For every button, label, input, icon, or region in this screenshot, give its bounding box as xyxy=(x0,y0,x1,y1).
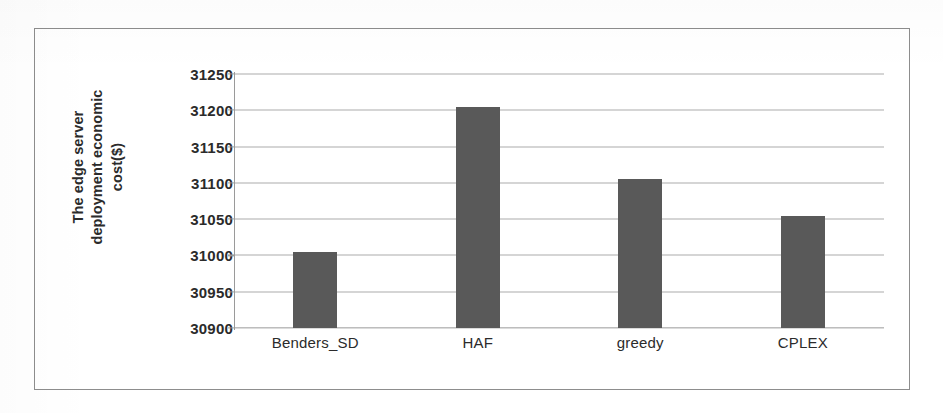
y-axis-tick-mark xyxy=(228,219,235,220)
y-axis-title: The edge server deployment economic cost… xyxy=(70,22,126,312)
bar-slot xyxy=(234,74,397,328)
chart-screenshot: The edge server deployment economic cost… xyxy=(0,0,943,413)
bar[interactable] xyxy=(293,252,337,328)
x-axis-category-label: CPLEX xyxy=(778,334,828,351)
y-axis-tick-mark xyxy=(228,146,235,147)
y-axis-tick-mark xyxy=(228,73,235,74)
x-axis-category-label: Benders_SD xyxy=(272,334,359,351)
bars-layer xyxy=(234,74,884,328)
y-axis-title-line-2: deployment economic xyxy=(88,90,107,245)
y-axis-tick-mark xyxy=(228,182,235,183)
bar-slot xyxy=(397,74,560,328)
chart-frame: The edge server deployment economic cost… xyxy=(34,28,910,390)
bar[interactable] xyxy=(618,179,662,328)
y-axis-tick-mark xyxy=(228,110,235,111)
y-axis-tick-label: 31100 xyxy=(133,174,233,191)
y-axis-tick-mark xyxy=(228,255,235,256)
x-axis-category-labels: Benders_SDHAFgreedyCPLEX xyxy=(234,334,884,364)
y-axis-title-line-1: The edge server xyxy=(69,111,88,224)
x-axis-category-label: greedy xyxy=(617,334,664,351)
bar[interactable] xyxy=(781,216,825,328)
y-axis-tick-label: 31150 xyxy=(133,138,233,155)
bar[interactable] xyxy=(456,107,500,328)
y-axis-tick-labels: 3125031200311503110031050310003095030900 xyxy=(133,74,233,336)
y-axis-tick-mark xyxy=(228,327,235,328)
bar-slot xyxy=(722,74,885,328)
y-axis-tick-label: 30900 xyxy=(133,320,233,337)
plot-area xyxy=(234,74,884,328)
y-axis-tick-label: 31050 xyxy=(133,211,233,228)
y-axis-tick-label: 31200 xyxy=(133,102,233,119)
y-axis-tick-mark xyxy=(228,291,235,292)
x-axis-category-label: HAF xyxy=(462,334,493,351)
y-axis-title-line-3: cost($) xyxy=(108,143,127,191)
bar-slot xyxy=(559,74,722,328)
y-axis-tick-label: 31250 xyxy=(133,66,233,83)
y-axis-tick-label: 30950 xyxy=(133,283,233,300)
y-axis-tick-label: 31000 xyxy=(133,247,233,264)
